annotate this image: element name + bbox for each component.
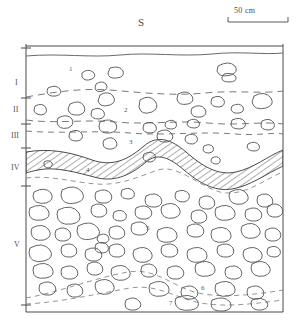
layer-label-1: 1 — [69, 65, 73, 73]
ground-surface-line — [26, 53, 283, 56]
hatched-band-layer-4 — [26, 139, 283, 189]
unit-label-ii: II — [13, 105, 18, 114]
unit-label-v: V — [14, 240, 20, 249]
unit-label-i: I — [15, 78, 18, 87]
unit-label-iii: III — [11, 131, 19, 140]
section-drawing — [0, 0, 306, 324]
scale-bar — [228, 17, 288, 22]
stone-outlines — [29, 63, 283, 311]
layer-label-6: 6 — [201, 284, 205, 292]
layer-label-2: 2 — [124, 106, 128, 114]
layer-label-5: 5 — [146, 224, 150, 232]
unit-label-iv: IV — [11, 163, 19, 172]
direction-marker-south: S — [138, 16, 145, 28]
boundary-dashed-1 — [26, 89, 283, 97]
layer-label-3: 3 — [129, 138, 133, 146]
layer-label-7: 7 — [169, 299, 173, 307]
layer-label-4: 4 — [86, 166, 90, 174]
scale-bar-label: 50 cm — [234, 6, 255, 15]
